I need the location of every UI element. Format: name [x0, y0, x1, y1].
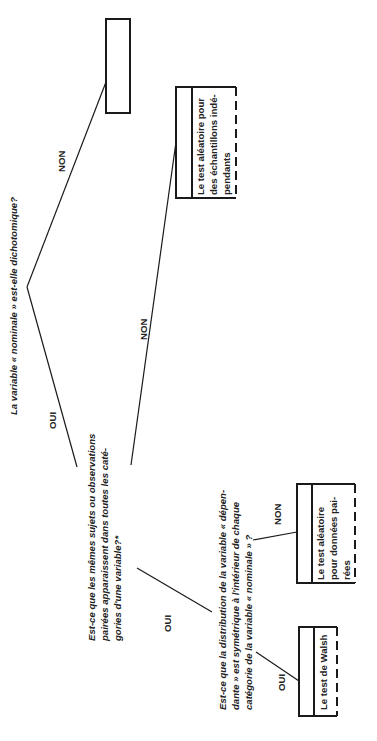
result-text-line-3: pendants: [221, 152, 232, 195]
box-header-strip: [299, 627, 314, 716]
question-2-line-1: Est-ce que les mêmes sujets ou observati…: [86, 434, 97, 641]
branch-label-q3-oui: OUI: [276, 674, 287, 691]
branch-label-q3-non: NON: [272, 504, 283, 525]
branch-label-root-oui: OUI: [47, 412, 58, 429]
connector-lines: [27, 82, 299, 681]
result-text-line-1: Le test de Walsh: [318, 635, 329, 710]
branch-label-q2-non: NON: [138, 319, 149, 340]
line-root-non: [27, 82, 106, 287]
question-3-line-3: catégorie de la variable « nominale » ?: [243, 534, 254, 710]
line-q2-oui: [137, 568, 212, 612]
branch-label-q2-oui: OUI: [162, 615, 173, 632]
branch-label-root-non: NON: [56, 151, 67, 172]
result-text-line-2: des échantillons indé-: [208, 94, 219, 195]
question-3-line-2: dante » est symétrique à l'intérieur de …: [230, 501, 241, 710]
box-header-strip: [297, 484, 312, 583]
line-root-oui: [27, 287, 77, 467]
result-box-independent-samples: Le test aléatoire pour des échantillons …: [176, 87, 236, 198]
result-box-paired-data: Le test aléatoire pour données pai- rées: [297, 484, 355, 583]
line-q3-non: [253, 532, 297, 540]
result-text-line-3: rées: [341, 560, 352, 580]
question-2-line-3: gories d'une variable?*: [112, 535, 123, 642]
empty-result-box: [106, 19, 130, 113]
result-text-line-1: Le test aléatoire: [315, 507, 326, 580]
question-3: Est-ce que la distribution de la variabl…: [217, 490, 254, 710]
root-question: La variable « nominale » est-elle dichot…: [8, 197, 19, 415]
question-2: Est-ce que les mêmes sujets ou observati…: [86, 434, 123, 642]
box-header-strip: [176, 87, 192, 198]
question-3-line-1: Est-ce que la distribution de la variabl…: [217, 490, 228, 710]
line-q2-non: [131, 142, 176, 465]
question-2-line-2: pairées apparaissent dans toutes les cat…: [99, 448, 110, 642]
result-text-line-1: Le test aléatoire pour: [195, 98, 206, 195]
result-text-line-2: pour données pai-: [328, 497, 339, 580]
result-box-walsh: Le test de Walsh: [299, 627, 337, 716]
decision-tree-diagram: Le test aléatoire pour des échantillons …: [0, 0, 377, 741]
